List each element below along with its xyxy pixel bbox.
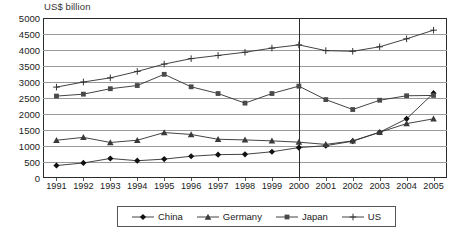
y-axis-tick-label: 1000 [0, 141, 40, 152]
data-point-plus [376, 44, 383, 51]
x-axis-tick-label: 2004 [396, 181, 416, 191]
data-point-square [296, 84, 301, 89]
data-point-plus [215, 52, 222, 59]
data-point-square [54, 94, 59, 99]
data-point-square [189, 84, 194, 89]
data-point-square [108, 86, 113, 91]
y-axis-tick-label: 5000 [0, 13, 40, 24]
data-point-diamond [80, 160, 86, 166]
x-axis-tick-label: 2001 [316, 181, 336, 191]
legend-label: Germany [223, 211, 262, 222]
x-axis-tick [245, 178, 246, 181]
data-point-square [323, 97, 328, 102]
plot-area [43, 18, 447, 178]
legend-label: Japan [302, 211, 328, 222]
data-point-triangle [430, 116, 437, 122]
series-germany [53, 116, 437, 148]
data-point-square [162, 72, 167, 77]
data-point-triangle [80, 134, 87, 140]
legend-marker-diamond-icon [132, 212, 154, 222]
y-axis-tick-label: 0 [0, 173, 40, 184]
x-axis-tick-label: 1996 [181, 181, 201, 191]
data-point-plus [188, 55, 195, 62]
x-axis-tick [137, 178, 138, 181]
x-axis-tick-label: 1998 [235, 181, 255, 191]
data-point-plus [269, 45, 276, 52]
x-axis-tick-label: 2003 [369, 181, 389, 191]
series-line [56, 30, 433, 87]
y-axis-tick-label: 3000 [0, 77, 40, 88]
data-point-square [350, 107, 355, 112]
data-point-square [243, 101, 248, 106]
x-axis-tick [164, 178, 165, 181]
data-point-square [270, 91, 275, 96]
data-point-plus [242, 49, 249, 56]
data-point-diamond [269, 149, 275, 155]
x-axis-tick [326, 178, 327, 181]
legend-item-japan[interactable]: Japan [276, 211, 328, 222]
legend-marker-square-icon [276, 212, 298, 222]
legend-item-germany[interactable]: Germany [197, 211, 262, 222]
x-axis-tick-label: 1995 [154, 181, 174, 191]
data-point-diamond [242, 151, 248, 157]
legend-label: China [158, 211, 183, 222]
legend-item-china[interactable]: China [132, 211, 183, 222]
data-point-plus [53, 84, 60, 91]
x-axis-tick [56, 178, 57, 181]
data-point-plus [161, 61, 168, 68]
y-axis-tick-label: 1500 [0, 125, 40, 136]
series-us [53, 27, 437, 91]
chart-container: US$ billion 5000450040003500300025002000… [0, 0, 461, 234]
x-axis-tick [380, 178, 381, 181]
data-point-square [285, 214, 290, 219]
data-point-diamond [140, 213, 146, 219]
chart-legend: ChinaGermanyJapanUS [117, 206, 396, 227]
data-point-plus [349, 213, 356, 220]
y-axis-tick-label: 4000 [0, 45, 40, 56]
x-axis-tick [299, 178, 300, 181]
data-point-square [431, 93, 436, 98]
x-axis-tick-label: 1994 [127, 181, 147, 191]
data-point-plus [296, 42, 303, 49]
y-axis-tick-label: 3500 [0, 61, 40, 72]
y-axis-tick-label: 2500 [0, 93, 40, 104]
y-axis-title: US$ billion [44, 1, 91, 12]
x-axis-tick-label: 1997 [208, 181, 228, 191]
x-axis-tick-label: 2000 [289, 181, 309, 191]
x-axis-tick [110, 178, 111, 181]
data-point-diamond [134, 158, 140, 164]
x-axis-tick [434, 178, 435, 181]
data-point-plus [430, 27, 437, 34]
data-point-plus [107, 75, 114, 82]
x-axis-tick-label: 1999 [262, 181, 282, 191]
x-axis-tick-label: 2002 [342, 181, 362, 191]
data-point-plus [403, 36, 410, 43]
x-axis-tick-label: 1992 [73, 181, 93, 191]
data-point-diamond [107, 155, 113, 161]
x-axis-tick-label: 1993 [100, 181, 120, 191]
y-axis-tick-label: 4500 [0, 29, 40, 40]
data-point-square [135, 83, 140, 88]
x-axis-tick [191, 178, 192, 181]
x-axis-tick [218, 178, 219, 181]
data-point-plus [349, 48, 356, 55]
y-axis-labels: 5000450040003500300025002000150010005000 [0, 0, 40, 234]
series-lines [43, 18, 447, 178]
x-axis-tick [407, 178, 408, 181]
data-point-square [216, 91, 221, 96]
legend-item-us[interactable]: US [342, 211, 381, 222]
x-axis-tick-label: 2005 [423, 181, 443, 191]
data-point-square [81, 92, 86, 97]
data-point-plus [80, 79, 87, 86]
data-point-square [404, 93, 409, 98]
data-point-plus [323, 47, 330, 54]
data-point-plus [134, 68, 141, 75]
data-point-diamond [161, 156, 167, 162]
data-point-triangle [161, 129, 168, 135]
y-axis-tick-label: 2000 [0, 109, 40, 120]
data-point-diamond [188, 153, 194, 159]
x-axis-tick [272, 178, 273, 181]
legend-marker-triangle-icon [197, 212, 219, 222]
legend-marker-plus-icon [342, 212, 364, 222]
x-axis-tick [83, 178, 84, 181]
